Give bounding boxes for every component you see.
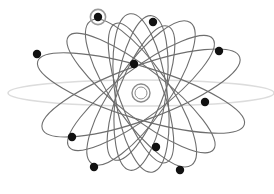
electron-top-center	[149, 18, 157, 26]
electron-center-upper	[130, 60, 138, 68]
electron-highlighted-top-left	[94, 13, 102, 21]
atom-illustration	[0, 0, 274, 194]
electron-bottom-left	[90, 163, 98, 171]
atom-diagram-canvas	[0, 0, 274, 194]
electron-center-lower	[152, 143, 160, 151]
electron-right-upper	[215, 47, 223, 55]
electrons-layer	[33, 9, 223, 174]
electron-bottom-right	[176, 166, 184, 174]
electron-left-lower	[68, 133, 76, 141]
nucleus-layer	[132, 84, 150, 102]
nucleus-core	[135, 87, 147, 99]
electron-right-lower	[201, 98, 209, 106]
electron-left-upper	[33, 50, 41, 58]
